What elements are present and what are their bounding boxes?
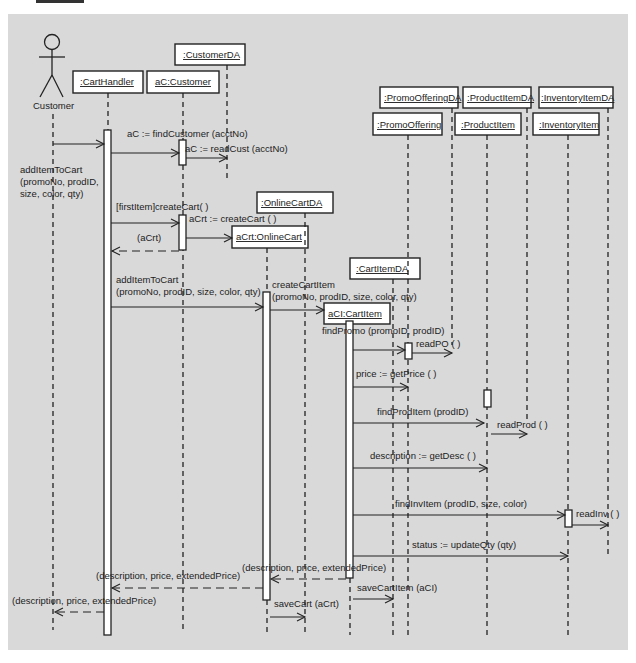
object-label: :InventoryItemDA bbox=[541, 92, 615, 103]
message-label: (promoNo, prodID, size, color, qty) bbox=[116, 286, 261, 297]
message-label: price := getPrice ( ) bbox=[356, 368, 437, 379]
message-label: status := updateQty (qty) bbox=[412, 539, 516, 550]
message-label: (aCrt) bbox=[137, 232, 161, 243]
message-label: aCrt := createCart ( ) bbox=[189, 213, 276, 224]
message-label: (description, price, extendedPrice) bbox=[12, 595, 156, 606]
message-label: findProdItem (prodID) bbox=[377, 406, 468, 417]
object-label: :CustomerDA bbox=[183, 49, 241, 60]
message-label: (promoNo, prodID, size, color, qty) bbox=[272, 291, 417, 302]
object-label: :PromoOfferingDA bbox=[384, 92, 462, 103]
message-label: findPromo (promoID, prodID) bbox=[322, 325, 444, 336]
object-label: :CartItemDA bbox=[356, 263, 409, 274]
object-label: aCI:CartItem bbox=[328, 308, 382, 319]
object-label: :OnlineCartDA bbox=[261, 197, 323, 208]
message-label: size, color, qty) bbox=[20, 188, 83, 199]
object-label: :InventoryItem bbox=[539, 119, 599, 130]
object-label: :PromoOffering bbox=[377, 119, 441, 130]
message-label: readInv ( ) bbox=[576, 508, 619, 519]
sequence-diagram: Customer :CartHandler aC:Customer :Custo… bbox=[0, 0, 636, 663]
message-label: aC := readCust (acctNo) bbox=[185, 143, 288, 154]
message-label: createCartItem bbox=[272, 279, 335, 290]
message-label: description := getDesc ( ) bbox=[370, 450, 476, 461]
actor-customer-icon bbox=[39, 35, 65, 98]
actor-label: Customer bbox=[33, 100, 74, 111]
message-label: saveCart (aCrt) bbox=[274, 598, 339, 609]
object-label: aCrt:OnlineCart bbox=[236, 231, 302, 242]
object-label: :CartHandler bbox=[80, 76, 134, 87]
message-label: addItemToCart bbox=[20, 164, 83, 175]
message-label: aC := findCustomer (acctNo) bbox=[127, 128, 248, 139]
message-label: readPO ( ) bbox=[416, 338, 460, 349]
message-label: (description, price, extendedPrice) bbox=[96, 570, 240, 581]
message-label: (description, price, extendedPrice) bbox=[242, 562, 386, 573]
object-label: :ProductItemDA bbox=[467, 92, 535, 103]
object-label: :ProductItem bbox=[461, 119, 515, 130]
message-label: findInvItem (prodID, size, color) bbox=[395, 498, 527, 509]
message-label: readProd ( ) bbox=[497, 419, 548, 430]
message-label: [firstItem]createCart( ) bbox=[116, 201, 208, 212]
lifelines bbox=[53, 65, 608, 635]
message-label: (promoNo, prodID, bbox=[20, 176, 99, 187]
message-label: saveCartItem (aCI) bbox=[357, 582, 437, 593]
message-label: addItemToCart bbox=[116, 274, 179, 285]
object-label: aC:Customer bbox=[155, 76, 211, 87]
